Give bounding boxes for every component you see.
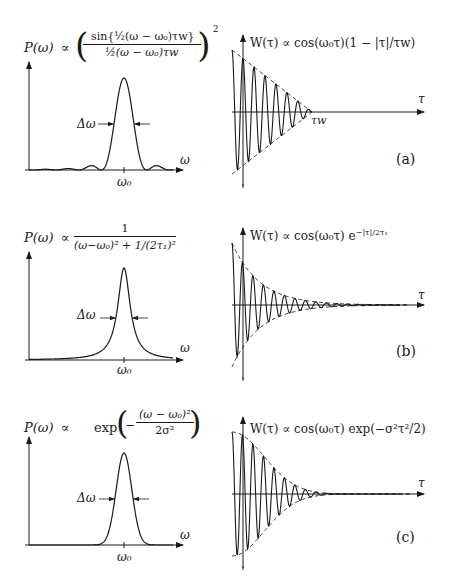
panel-c-spectrum-fraction: ( − (ω − ω₀)² 2σ² ): [122, 408, 194, 437]
oscillation-curve: [232, 50, 312, 170]
panel-b-tau-axis-label: τ: [418, 288, 425, 302]
panel-a-omega-axis-label: ω: [180, 153, 190, 167]
panel-c-tau-axis-label: τ: [418, 476, 425, 490]
upper-envelope-dashed: [232, 50, 312, 112]
panel-c-correlation: [232, 417, 424, 570]
panel-a-omega0-label: ω₀: [117, 175, 132, 189]
left-paren: (: [75, 28, 88, 62]
panel-c-omega0-label: ω₀: [117, 550, 132, 564]
panel-c-spectrum-exp: exp: [94, 420, 117, 435]
minus-sign: −: [125, 418, 135, 432]
lower-envelope-dashed: [232, 494, 410, 556]
panel-c-spectrum-ylabel: P(ω) ∝: [24, 420, 69, 435]
panel-c-tag: (c): [396, 529, 415, 545]
prop-symbol: ∝: [61, 40, 70, 55]
ylabel-text: P(ω): [24, 230, 54, 245]
ylabel-text: P(ω): [24, 40, 54, 55]
exp-prefix: exp: [94, 420, 117, 435]
panel-b-omega-axis-label: ω: [180, 341, 190, 355]
upper-envelope-dashed: [232, 243, 410, 305]
formula-numerator: 1: [74, 222, 176, 237]
label-exponent: −|τ|/2τ₁: [356, 228, 388, 237]
panel-b-tag: (b): [396, 343, 416, 359]
panel-b-delta-omega: Δω: [77, 308, 95, 322]
panel-a-spectrum-ylabel: P(ω) ∝: [24, 40, 69, 55]
panel-a-spectrum: [25, 62, 183, 173]
ylabel-text: P(ω): [24, 420, 54, 435]
panel-a-tauw-label: τw: [311, 114, 327, 127]
formula-numerator: sin{½(ω − ω₀)τw}: [83, 28, 201, 45]
panel-c-omega-axis-label: ω: [180, 528, 190, 542]
label-main: W(τ) ∝ cos(ω₀τ) e: [250, 229, 356, 243]
panel-b-spectrum-fraction: 1 (ω−ω₀)² + 1/(2τ₁)²: [74, 222, 176, 252]
panel-c-spectrum: [25, 437, 183, 548]
panel-a-spectrum-fraction: ( sin{½(ω − ω₀)τw} ½(ω − ω₀)τw ) 2: [83, 28, 201, 59]
line-shape-curve: [29, 268, 173, 359]
panel-b-spectrum-ylabel: P(ω) ∝: [24, 230, 69, 245]
lower-envelope-dashed: [232, 305, 410, 367]
oscillation-curve: [232, 243, 400, 357]
panel-c-correlation-label: W(τ) ∝ cos(ω₀τ) exp(−σ²τ²/2): [250, 422, 426, 436]
right-paren: ): [189, 407, 201, 439]
panel-b-spectrum: [25, 252, 183, 363]
upper-envelope-dashed: [232, 432, 410, 494]
exponent: 2: [213, 24, 219, 34]
panel-a-correlation-label: W(τ) ∝ cos(ω₀τ)(1 − |τ|/τw): [250, 36, 415, 50]
panel-a-delta-omega: Δω: [77, 117, 95, 131]
panel-b-correlation-label: W(τ) ∝ cos(ω₀τ) e−|τ|/2τ₁: [250, 228, 388, 243]
panel-a-tau-axis-label: τ: [418, 92, 425, 106]
figure-canvas: [0, 0, 449, 585]
formula-denominator: 2σ²: [136, 423, 194, 437]
panel-b-omega0-label: ω₀: [117, 363, 132, 377]
lower-envelope-dashed: [232, 112, 312, 174]
prop-symbol: ∝: [61, 420, 70, 435]
right-paren: ): [197, 28, 210, 62]
formula-numerator: (ω − ω₀)²: [136, 408, 194, 423]
formula-denominator: ½(ω − ω₀)τw: [83, 45, 201, 59]
prop-symbol: ∝: [61, 230, 70, 245]
panel-c-delta-omega: Δω: [77, 491, 95, 505]
formula-denominator: (ω−ω₀)² + 1/(2τ₁)²: [74, 237, 176, 252]
panel-a-tag: (a): [396, 151, 415, 167]
